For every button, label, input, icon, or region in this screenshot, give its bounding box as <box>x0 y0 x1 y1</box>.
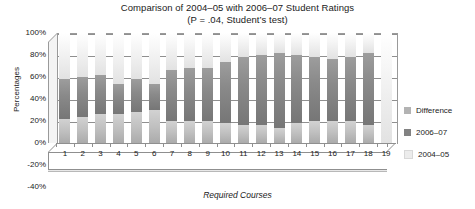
bar-segment-difference <box>256 125 267 143</box>
bar-column <box>256 33 267 143</box>
bar-column <box>59 33 70 143</box>
bar-segment-difference <box>59 119 70 143</box>
bar-segment-difference <box>309 121 320 143</box>
bar-column <box>238 33 249 143</box>
x-tick-mark <box>359 143 360 147</box>
bar-segment-2006-07 <box>309 57 320 121</box>
bar-segment-2004-05 <box>238 33 249 57</box>
bar-segment-2006-07 <box>149 84 160 110</box>
x-tick-mark <box>234 143 235 147</box>
bar-segment-2004-05 <box>131 33 142 79</box>
x-tick-label: 7 <box>165 149 179 158</box>
bar-segment-2006-07 <box>274 53 285 128</box>
bar-segment-2006-07 <box>202 68 213 121</box>
bar-segment-2004-05 <box>309 33 320 57</box>
bar-segment-difference <box>95 114 106 143</box>
x-tick-label: 5 <box>129 149 143 158</box>
x-tick-mark <box>217 143 218 147</box>
x-tick-label: 4 <box>111 149 125 158</box>
bar-column <box>291 33 302 143</box>
bar-segment-difference <box>220 123 231 143</box>
bar-segment-2004-05 <box>381 33 392 143</box>
x-tick-mark <box>56 143 57 147</box>
x-tick-mark <box>270 143 271 147</box>
bar-group <box>57 33 396 143</box>
y-tick-label: 100% <box>12 29 46 37</box>
y-tick-label: 80% <box>12 51 46 59</box>
bar-column <box>274 33 285 143</box>
x-tick-label: 11 <box>236 149 250 158</box>
bar-segment-2004-05 <box>202 33 213 68</box>
chart-subtitle: (P = .04, Student’s test) <box>0 14 475 26</box>
x-tick-label: 8 <box>183 149 197 158</box>
bar-column <box>327 33 338 143</box>
legend-label: 2004–05 <box>418 150 449 159</box>
x-tick-mark <box>127 143 128 147</box>
legend-label: 2006–07 <box>416 128 447 137</box>
bar-segment-2004-05 <box>95 33 106 75</box>
bar-segment-2006-07 <box>220 62 231 124</box>
bar-column <box>381 33 392 143</box>
bar-segment-difference <box>113 114 124 143</box>
legend-item: 2006–07 <box>404 121 475 143</box>
bar-segment-2006-07 <box>131 79 142 112</box>
chart-screenshot: Comparison of 2004–05 with 2006–07 Stude… <box>0 0 475 209</box>
x-tick-label: 15 <box>308 149 322 158</box>
x-tick-label: 18 <box>361 149 375 158</box>
chart-title-block: Comparison of 2004–05 with 2006–07 Stude… <box>0 2 475 26</box>
legend-item: 2004–05 <box>404 143 475 165</box>
bar-segment-2004-05 <box>220 33 231 62</box>
bar-segment-2006-07 <box>166 70 177 121</box>
bar-segment-difference <box>166 121 177 143</box>
bar-segment-2004-05 <box>77 33 88 77</box>
x-tick-mark <box>110 143 111 147</box>
x-tick-mark <box>145 143 146 147</box>
x-tick-mark <box>387 143 388 147</box>
legend-label: Difference <box>416 106 452 115</box>
bar-segment-difference <box>149 110 160 143</box>
bar-column <box>309 33 320 143</box>
bar-column <box>166 33 177 143</box>
bar-segment-2006-07 <box>238 57 249 125</box>
plot-floor-bottom-edge <box>48 169 387 170</box>
chart-title: Comparison of 2004–05 with 2006–07 Stude… <box>0 2 475 14</box>
bar-segment-difference <box>184 121 195 143</box>
bar-segment-2006-07 <box>345 57 356 121</box>
bar-segment-difference <box>77 117 88 143</box>
x-tick-label: 17 <box>343 149 357 158</box>
bar-segment-2006-07 <box>95 75 106 115</box>
bar-segment-difference <box>363 125 374 143</box>
bar-column <box>345 33 356 143</box>
legend-swatch <box>404 129 411 136</box>
bar-segment-difference <box>202 121 213 143</box>
x-axis-ticks: 12345678910111213141516171819 <box>48 143 396 165</box>
bar-segment-2004-05 <box>256 33 267 55</box>
x-tick-label: 10 <box>219 149 233 158</box>
x-tick-label: 1 <box>58 149 72 158</box>
bar-segment-2004-05 <box>166 33 177 70</box>
chart-legend: Difference2006–072004–05 <box>404 99 475 165</box>
y-axis-ticks: 100%80%60%40%20%0%-20%-40% <box>6 0 46 209</box>
bar-segment-difference <box>345 121 356 143</box>
bar-segment-2006-07 <box>291 55 302 123</box>
x-tick-mark <box>199 143 200 147</box>
x-tick-label: 6 <box>147 149 161 158</box>
bar-segment-2004-05 <box>149 33 160 84</box>
x-tick-label: 14 <box>290 149 304 158</box>
x-tick-mark <box>252 143 253 147</box>
bar-segment-2004-05 <box>113 33 124 84</box>
x-tick-mark <box>181 143 182 147</box>
bar-segment-difference <box>274 128 285 143</box>
bar-column <box>95 33 106 143</box>
x-tick-label: 12 <box>254 149 268 158</box>
legend-swatch <box>404 107 411 114</box>
bar-column <box>131 33 142 143</box>
bar-column <box>184 33 195 143</box>
x-tick-label: 19 <box>379 149 393 158</box>
x-tick-label: 13 <box>272 149 286 158</box>
legend-swatch <box>404 150 413 159</box>
y-tick-label: 0% <box>12 139 46 147</box>
x-tick-label: 9 <box>201 149 215 158</box>
y-tick-label: 40% <box>12 95 46 103</box>
y-tick-label: 60% <box>12 73 46 81</box>
